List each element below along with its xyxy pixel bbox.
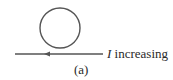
current-direction-arrow-icon bbox=[44, 52, 50, 57]
current-label: I increasing bbox=[107, 47, 168, 60]
current-description: increasing bbox=[111, 46, 168, 61]
conducting-loop bbox=[40, 8, 80, 48]
figure-caption: (a) bbox=[74, 63, 88, 76]
